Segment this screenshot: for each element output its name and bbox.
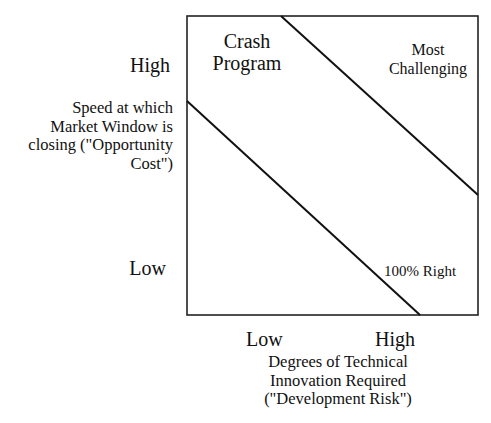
x-axis-title-line: ("Development Risk") (262, 390, 414, 409)
x-axis-title-line: Degrees of Technical (262, 353, 414, 372)
x-axis-high-label: High (375, 328, 415, 351)
y-axis-low-label: Low (120, 257, 166, 280)
region-100-percent-right: 100% Right (384, 263, 456, 280)
region-label-line: Crash (212, 30, 282, 52)
y-axis-high-label: High (120, 54, 170, 77)
region-label-line: Program (212, 52, 282, 74)
y-axis-title-line: closing ("Opportunity (10, 136, 173, 155)
y-axis-title: Speed at which Market Window is closing … (10, 99, 173, 173)
lower-diagonal-line (187, 101, 420, 315)
region-most-challenging: Most Challenging (382, 40, 474, 78)
y-axis-title-line: Cost") (10, 155, 173, 174)
region-label-line: Challenging (382, 59, 474, 78)
x-axis-low-label: Low (246, 328, 283, 351)
y-axis-title-line: Market Window is (10, 118, 173, 137)
x-axis-title: Degrees of Technical Innovation Required… (262, 353, 414, 409)
region-crash-program: Crash Program (212, 30, 282, 74)
y-axis-title-line: Speed at which (10, 99, 173, 118)
region-label-line: Most (382, 40, 474, 59)
x-axis-title-line: Innovation Required (262, 372, 414, 391)
